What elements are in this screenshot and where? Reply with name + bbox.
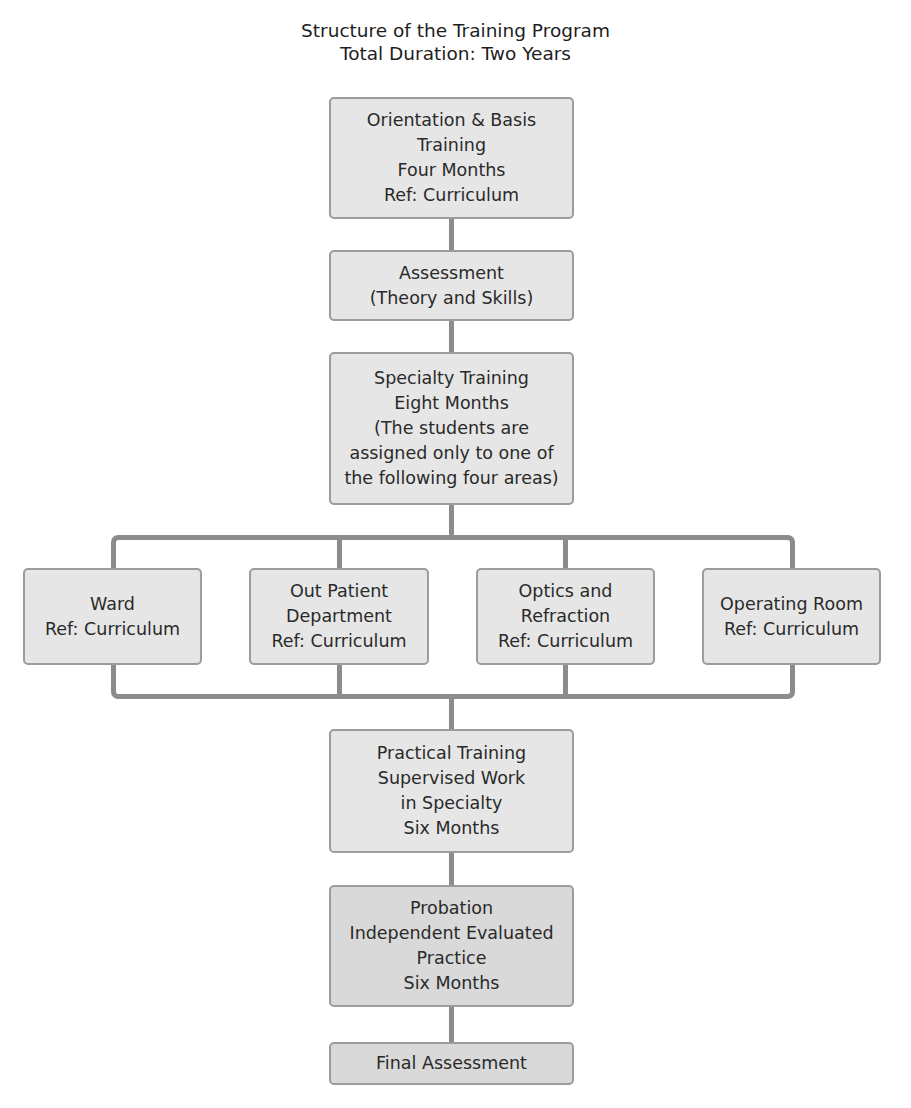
node-text: Assessment	[399, 261, 504, 286]
node-text: (Theory and Skills)	[370, 286, 533, 311]
title-line-1: Structure of the Training Program	[0, 19, 911, 42]
bus-top-drop-or	[790, 548, 795, 568]
node-practical-training: Practical Training Supervised Work in Sp…	[329, 729, 574, 853]
bus-top-drop-opd	[337, 539, 342, 568]
node-area-operating-room: Operating Room Ref: Curriculum	[702, 568, 881, 665]
connector-orientation-assessment	[449, 219, 454, 250]
bus-bottom-rise-optics	[563, 665, 568, 695]
bus-bottom-rise-or	[790, 665, 795, 685]
bus-bottom-left-corner	[111, 685, 125, 699]
node-text: Refraction	[521, 604, 610, 629]
node-final-assessment: Final Assessment	[329, 1042, 574, 1085]
node-text: Out Patient	[290, 579, 388, 604]
node-text: Practice	[417, 946, 487, 971]
node-text: in Specialty	[401, 791, 503, 816]
title-line-2: Total Duration: Two Years	[0, 42, 911, 65]
bus-top-drop-ward	[111, 548, 116, 568]
bus-top	[124, 535, 781, 540]
bus-bottom-rise-ward	[111, 665, 116, 685]
node-area-optics-refraction: Optics and Refraction Ref: Curriculum	[476, 568, 655, 665]
node-text: Training	[417, 133, 486, 158]
node-text: Ward	[90, 592, 135, 617]
node-text: Ref: Curriculum	[724, 617, 859, 642]
bus-bottom	[124, 694, 781, 699]
node-area-out-patient-department: Out Patient Department Ref: Curriculum	[249, 568, 429, 665]
node-text: Six Months	[404, 816, 500, 841]
node-text: Ref: Curriculum	[45, 617, 180, 642]
node-text: Final Assessment	[376, 1051, 527, 1076]
node-text: Optics and	[519, 579, 613, 604]
connector-bus-practical	[449, 697, 454, 729]
node-text: Probation	[410, 896, 493, 921]
node-text: Operating Room	[720, 592, 863, 617]
node-text: (The students are	[374, 416, 529, 441]
node-text: assigned only to one of	[349, 441, 553, 466]
node-text: the following four areas)	[344, 466, 558, 491]
node-text: Ref: Curriculum	[384, 183, 519, 208]
bus-bottom-right-corner	[781, 685, 795, 699]
connector-probation-final	[449, 1007, 454, 1042]
node-specialty-training: Specialty Training Eight Months (The stu…	[329, 352, 574, 505]
node-orientation-training: Orientation & Basis Training Four Months…	[329, 97, 574, 219]
node-text: Ref: Curriculum	[271, 629, 406, 654]
node-text: Orientation & Basis	[367, 108, 536, 133]
diagram-title: Structure of the Training Program Total …	[0, 19, 911, 65]
bus-top-right-corner	[781, 535, 795, 549]
bus-bottom-rise-opd	[337, 665, 342, 695]
node-text: Supervised Work	[378, 766, 525, 791]
node-text: Independent Evaluated	[349, 921, 553, 946]
bus-top-left-corner	[111, 535, 125, 549]
node-text: Specialty Training	[374, 366, 529, 391]
node-text: Six Months	[404, 971, 500, 996]
connector-assessment-specialty	[449, 321, 454, 352]
node-text: Practical Training	[377, 741, 526, 766]
node-text: Ref: Curriculum	[498, 629, 633, 654]
connector-practical-probation	[449, 853, 454, 885]
node-area-ward: Ward Ref: Curriculum	[23, 568, 202, 665]
node-text: Eight Months	[394, 391, 509, 416]
node-assessment: Assessment (Theory and Skills)	[329, 250, 574, 321]
bus-top-drop-optics	[563, 539, 568, 568]
connector-specialty-bus	[449, 505, 454, 539]
node-probation: Probation Independent Evaluated Practice…	[329, 885, 574, 1007]
node-text: Department	[286, 604, 392, 629]
node-text: Four Months	[398, 158, 506, 183]
